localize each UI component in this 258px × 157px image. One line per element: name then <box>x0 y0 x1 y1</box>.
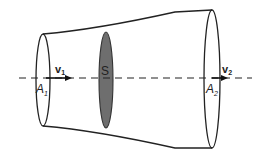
v1-arrowhead-icon <box>65 75 72 81</box>
v2-arrowhead-icon <box>221 75 228 81</box>
cross-section-s <box>99 32 113 128</box>
cross-section-a1 <box>36 34 50 126</box>
flow-tube-diagram: v1 v2 A1 A2 S <box>0 0 258 157</box>
label-v1: v1 <box>55 63 65 76</box>
label-a2: A2 <box>205 82 218 97</box>
tube-bottom-wall <box>43 126 212 148</box>
label-s: S <box>101 64 109 78</box>
cross-section-a2 <box>204 10 220 148</box>
tube-top-wall <box>43 10 212 34</box>
label-a1: A1 <box>35 82 48 97</box>
label-v2: v2 <box>222 63 232 76</box>
